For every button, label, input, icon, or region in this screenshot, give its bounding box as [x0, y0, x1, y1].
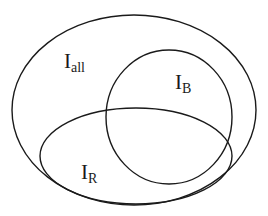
label-i-all: Iall	[64, 49, 85, 75]
venn-diagram: Iall IB IR	[0, 0, 268, 216]
label-i-r: IR	[81, 160, 98, 186]
label-i-b-sub: B	[182, 81, 191, 96]
label-i-r-sub: R	[88, 171, 98, 186]
label-i-b-main: I	[175, 70, 182, 94]
label-i-all-main: I	[64, 49, 71, 73]
set-r-ellipse	[40, 108, 232, 204]
set-b-circle	[106, 50, 232, 184]
label-i-b: IB	[175, 70, 191, 96]
label-i-r-main: I	[81, 160, 88, 184]
label-i-all-sub: all	[71, 60, 85, 75]
